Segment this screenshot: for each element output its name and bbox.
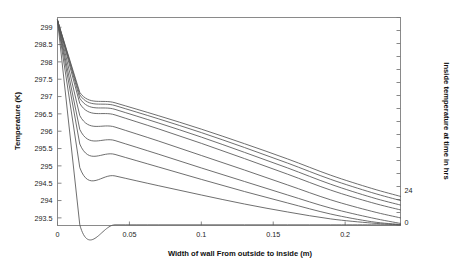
y-tick-label: 297.5 [35,75,53,84]
y-tick-label: 294 [41,196,53,205]
temperature-profile-chart: 293.5294294.5295295.5296296.5297297.5298… [0,0,461,267]
right-axis-label: Inside temperature at time in hrs [442,62,451,179]
x-tick-label: 0 [56,230,60,239]
x-tick-label: 0.15 [266,230,280,239]
y-tick-label: 296.5 [35,110,53,119]
y-tick-label: 299 [41,23,53,32]
y-tick-label: 293.5 [35,214,53,223]
y-tick-label: 295.5 [35,144,53,153]
figure-container: 293.5294294.5295295.5296296.5297297.5298… [0,0,461,267]
x-axis-label: Width of wall From outside to inside (m) [168,249,313,258]
right-tick-label: 24 [405,186,413,195]
y-tick-label: 298 [41,58,53,67]
x-tick-label: 0.05 [122,230,136,239]
figure-background [0,0,461,267]
right-tick-label: 0 [405,218,409,227]
y-axis-label: Temperature (K) [13,91,22,150]
y-tick-label: 298.5 [35,40,53,49]
y-tick-label: 297 [41,92,53,101]
y-tick-label: 294.5 [35,179,53,188]
y-tick-label: 295 [41,162,53,171]
x-tick-label: 0.2 [340,230,350,239]
y-tick-label: 296 [41,127,53,136]
x-tick-label: 0.1 [196,230,206,239]
